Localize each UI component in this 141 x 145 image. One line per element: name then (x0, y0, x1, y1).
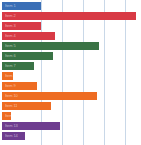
bar-label: Item 9 (5, 82, 16, 90)
bar-row[interactable]: Item 9 (0, 82, 141, 90)
bar[interactable]: Item 2 (2, 12, 136, 20)
bar-label: Item 6 (5, 52, 16, 60)
bar-label: Item 12 (5, 112, 18, 120)
bar[interactable]: Item 10 (2, 92, 97, 100)
bar[interactable]: Item 8 (2, 72, 13, 80)
bar-label: Item 1 (5, 2, 16, 10)
bar-row[interactable]: Item 8 (0, 72, 141, 80)
bar-row[interactable]: Item 13 (0, 122, 141, 130)
bar[interactable]: Item 1 (2, 2, 41, 10)
bar-label: Item 5 (5, 42, 16, 50)
bar-row[interactable]: Item 14 (0, 132, 141, 140)
horizontal-bar-chart: Item 1Item 2Item 3Item 4Item 5Item 6Item… (0, 0, 141, 145)
bar-label: Item 13 (5, 122, 18, 130)
bar[interactable]: Item 14 (2, 132, 25, 140)
bar[interactable]: Item 7 (2, 62, 34, 70)
bar-row[interactable]: Item 7 (0, 62, 141, 70)
bar-label: Item 14 (5, 132, 18, 140)
bar[interactable]: Item 11 (2, 102, 51, 110)
bar-row[interactable]: Item 10 (0, 92, 141, 100)
bar[interactable]: Item 13 (2, 122, 60, 130)
bar-label: Item 7 (5, 62, 16, 70)
bar[interactable]: Item 6 (2, 52, 53, 60)
bar-row[interactable]: Item 5 (0, 42, 141, 50)
bar-label: Item 11 (5, 102, 17, 110)
bar[interactable]: Item 12 (2, 112, 11, 120)
bar-row[interactable]: Item 2 (0, 12, 141, 20)
bar-label: Item 3 (5, 22, 16, 30)
bar-row[interactable]: Item 4 (0, 32, 141, 40)
bar-row[interactable]: Item 12 (0, 112, 141, 120)
bar[interactable]: Item 4 (2, 32, 55, 40)
bar-row[interactable]: Item 1 (0, 2, 141, 10)
bar[interactable]: Item 5 (2, 42, 99, 50)
bar[interactable]: Item 9 (2, 82, 37, 90)
bar-label: Item 2 (5, 12, 16, 20)
bar-row[interactable]: Item 11 (0, 102, 141, 110)
plot-area: Item 1Item 2Item 3Item 4Item 5Item 6Item… (0, 0, 141, 145)
bar[interactable]: Item 3 (2, 22, 41, 30)
bar-row[interactable]: Item 3 (0, 22, 141, 30)
bar-label: Item 8 (5, 72, 16, 80)
bar-row[interactable]: Item 6 (0, 52, 141, 60)
bar-label: Item 10 (5, 92, 18, 100)
bar-label: Item 4 (5, 32, 16, 40)
